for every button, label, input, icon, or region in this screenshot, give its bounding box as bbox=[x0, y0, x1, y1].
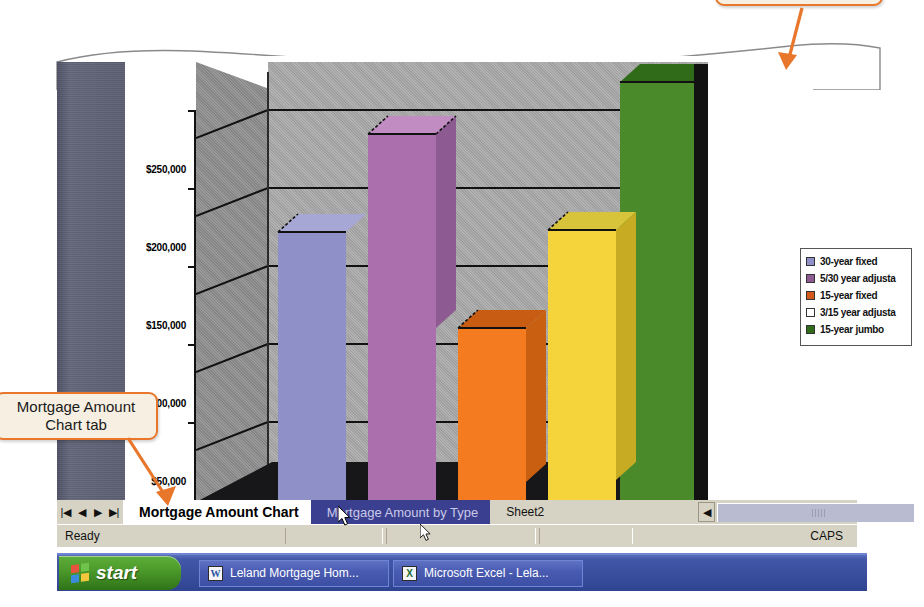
mouse-cursor-status bbox=[420, 524, 436, 546]
sheet-tab-mortgage-amount-chart[interactable]: Mortgage Amount Chart bbox=[123, 500, 311, 524]
legend-swatch-icon bbox=[806, 274, 815, 283]
legend-label: 30-year fixed bbox=[820, 256, 877, 267]
legend-item-15-year-jumbo[interactable]: 15-year jumbo bbox=[806, 321, 907, 338]
y-tick-50000: $50,000 bbox=[151, 476, 186, 487]
annotation-callout-chart-tab: Mortgage Amount Chart tab bbox=[0, 392, 158, 440]
legend-swatch-icon bbox=[806, 308, 815, 317]
mouse-cursor-tab bbox=[338, 506, 354, 528]
start-button[interactable]: start bbox=[59, 556, 181, 590]
chart-legend[interactable]: 30-year fixed 5/30 year adjusta 15-year … bbox=[800, 248, 912, 346]
bar-3-15-year-adjustable bbox=[548, 212, 636, 500]
status-indicator-cells bbox=[285, 528, 810, 544]
chart-plot-area[interactable] bbox=[196, 62, 708, 502]
sheet-tab-bar[interactable]: |◀ ◀ ▶ ▶| Mortgage Amount Chart Mortgage… bbox=[57, 500, 857, 524]
taskbar-item-excel[interactable]: Microsoft Excel - Lela... bbox=[393, 560, 583, 587]
y-tick-200000: $200,000 bbox=[146, 242, 186, 253]
annotation-callout-top-right bbox=[715, 0, 883, 6]
legend-item-3-15-year-adjustable[interactable]: 3/15 year adjusta bbox=[806, 304, 907, 321]
legend-item-5-30-year-adjustable[interactable]: 5/30 year adjusta bbox=[806, 270, 907, 287]
taskbar-items[interactable]: Leland Mortgage Hom... Microsoft Excel -… bbox=[199, 560, 583, 587]
status-cell-1 bbox=[285, 528, 383, 544]
word-icon bbox=[208, 566, 223, 581]
sheet-tab-label: Mortgage Amount Chart bbox=[139, 504, 299, 520]
legend-item-15-year-fixed[interactable]: 15-year fixed bbox=[806, 287, 907, 304]
legend-label: 5/30 year adjusta bbox=[820, 273, 896, 284]
taskbar-item-label: Leland Mortgage Hom... bbox=[230, 566, 359, 580]
start-button-label: start bbox=[96, 562, 137, 584]
legend-swatch-icon bbox=[806, 291, 815, 300]
caps-lock-indicator: CAPS bbox=[810, 529, 857, 543]
excel-icon bbox=[402, 566, 417, 581]
sheet-tab-label: Sheet2 bbox=[506, 505, 544, 519]
taskbar-item-word[interactable]: Leland Mortgage Hom... bbox=[199, 560, 389, 587]
annotation-line-1: Mortgage Amount bbox=[17, 398, 135, 415]
legend-label: 3/15 year adjusta bbox=[820, 307, 896, 318]
taskbar-item-label: Microsoft Excel - Lela... bbox=[424, 566, 549, 580]
legend-label: 15-year jumbo bbox=[820, 324, 884, 335]
status-bar: Ready CAPS bbox=[57, 524, 857, 547]
legend-swatch-icon bbox=[806, 325, 815, 334]
bar-5-30-year-adjustable bbox=[368, 116, 456, 500]
next-sheet-icon[interactable]: ▶ bbox=[94, 507, 102, 518]
windows-taskbar[interactable]: start Leland Mortgage Hom... Microsoft E… bbox=[57, 553, 867, 591]
status-cell-3 bbox=[539, 528, 633, 544]
y-tick-250000: $250,000 bbox=[146, 164, 186, 175]
legend-item-30-year-fixed[interactable]: 30-year fixed bbox=[806, 253, 907, 270]
last-sheet-icon[interactable]: ▶| bbox=[109, 507, 120, 518]
scroll-left-arrow-icon[interactable]: ◀ bbox=[698, 502, 715, 522]
status-text: Ready bbox=[57, 529, 285, 543]
bar-30-year-fixed bbox=[278, 116, 366, 500]
legend-label: 15-year fixed bbox=[820, 290, 877, 301]
horizontal-scrollbar[interactable] bbox=[717, 503, 914, 522]
first-sheet-icon[interactable]: |◀ bbox=[61, 507, 72, 518]
y-tick-150000: $150,000 bbox=[146, 320, 186, 331]
scrollbar-grip-icon bbox=[812, 509, 826, 517]
annotation-line-2: Chart tab bbox=[45, 416, 107, 433]
annotation-callout-text: Mortgage Amount Chart tab bbox=[17, 398, 135, 433]
annotation-line-left-edge bbox=[0, 48, 44, 51]
tab-scroll-region[interactable]: ◀ bbox=[698, 500, 914, 524]
sheet-tab-sheet2[interactable]: Sheet2 bbox=[490, 500, 556, 524]
chart-bars[interactable] bbox=[196, 62, 708, 502]
windows-flag-icon bbox=[71, 563, 89, 584]
legend-swatch-icon bbox=[806, 257, 815, 266]
sheet-nav-buttons[interactable]: |◀ ◀ ▶ ▶| bbox=[57, 500, 123, 524]
bar-15-year-fixed bbox=[458, 310, 546, 500]
previous-sheet-icon[interactable]: ◀ bbox=[78, 507, 86, 518]
status-cell-2 bbox=[386, 528, 536, 544]
